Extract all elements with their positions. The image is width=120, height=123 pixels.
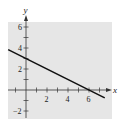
x-tick-label-2: 2 [45,95,49,104]
x-tick-label-6: 6 [87,95,91,104]
y-tick-label-6: 6 [18,23,22,32]
plot-area [8,22,112,119]
y-axis-label: y [23,5,28,15]
line-chart: 2 4 6 6 4 2 −2 x y [0,0,120,123]
y-axis-arrow-icon [24,15,28,21]
y-tick-label-neg2: −2 [13,107,22,116]
x-axis-label: x [112,85,117,95]
x-tick-label-4: 4 [66,95,70,104]
y-tick-label-2: 2 [18,65,22,74]
y-tick-label-4: 4 [18,44,22,53]
